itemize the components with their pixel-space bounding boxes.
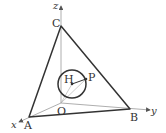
label-P: P	[88, 71, 96, 84]
x-axis-label: x	[11, 119, 17, 130]
segment-H-P	[72, 79, 86, 84]
label-C: C	[52, 17, 60, 30]
point-P	[85, 78, 88, 81]
z-axis-label: z	[52, 0, 59, 11]
label-O: O	[57, 105, 66, 118]
y-axis-label: y	[150, 105, 157, 116]
label-B: B	[130, 111, 138, 124]
label-H: H	[64, 73, 74, 86]
y-axis	[61, 103, 150, 110]
label-A: A	[23, 119, 33, 132]
diagram: z x y C O A B H P	[0, 0, 166, 133]
